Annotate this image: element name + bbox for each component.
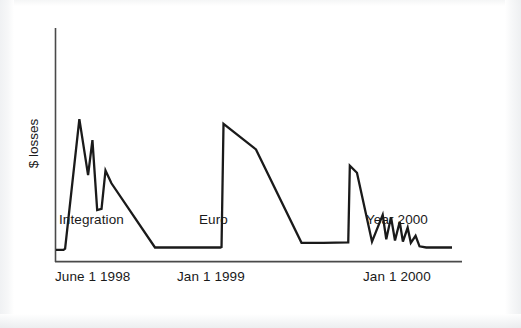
y-axis-label: $ losses bbox=[24, 104, 42, 186]
annotation-euro: Euro bbox=[199, 212, 228, 227]
chart-figure: $ losses Integration Euro Year 2000 June… bbox=[0, 0, 521, 328]
x-tick-label-jan-1-1999: Jan 1 1999 bbox=[177, 269, 245, 284]
annotation-year-2000: Year 2000 bbox=[366, 212, 428, 227]
x-tick-label-june-1-1998: June 1 1998 bbox=[55, 269, 130, 284]
y-axis-label-text: $ losses bbox=[26, 111, 41, 177]
x-tick-label-jan-1-2000: Jan 1 2000 bbox=[363, 269, 431, 284]
annotation-integration: Integration bbox=[59, 212, 124, 227]
data-series-line bbox=[56, 119, 452, 250]
